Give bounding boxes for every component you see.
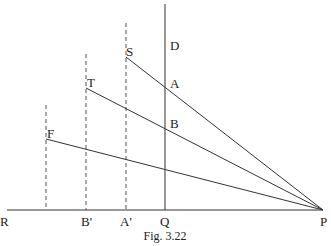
figure-caption: Fig. 3.22 <box>143 229 186 243</box>
label-r: R <box>0 214 9 229</box>
ray-sp <box>126 57 323 210</box>
label-t: T <box>87 75 95 90</box>
label-a: A <box>170 76 180 91</box>
label-b-prime: B' <box>81 214 92 229</box>
label-s: S <box>126 44 133 59</box>
ray-tp <box>86 88 323 210</box>
label-q: Q <box>160 214 170 229</box>
label-b: B <box>170 116 179 131</box>
ray-fp <box>46 139 323 210</box>
label-f: F <box>47 126 54 141</box>
label-a-prime: A' <box>120 214 132 229</box>
label-d: D <box>170 38 179 53</box>
figure-3-22: R B' A' Q P D S A T B F Fig. 3.22 <box>0 0 331 246</box>
label-p: P <box>320 214 327 229</box>
